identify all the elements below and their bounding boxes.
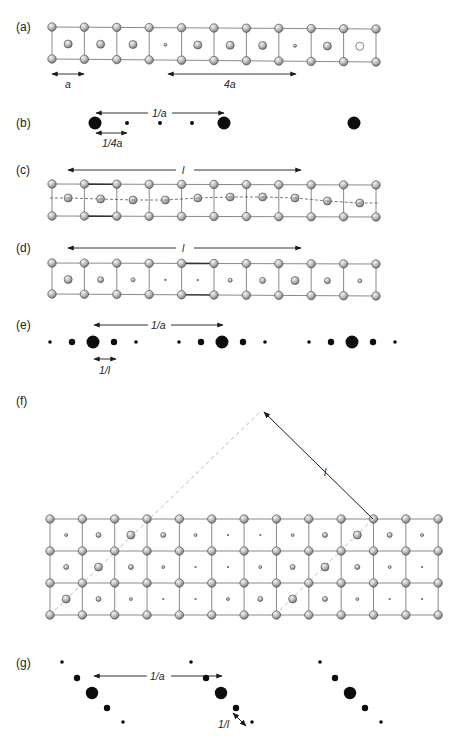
center-atom xyxy=(323,42,331,50)
center-atom xyxy=(194,566,196,568)
diffraction-spot xyxy=(134,340,138,344)
corner-atom xyxy=(242,24,250,32)
diffraction-spot xyxy=(216,336,229,349)
center-atom xyxy=(128,565,133,570)
center-atom xyxy=(97,40,105,48)
corner-atom xyxy=(307,24,315,32)
corner-atom xyxy=(177,212,185,220)
diffraction-spot xyxy=(332,675,338,681)
corner-atom xyxy=(275,260,283,268)
center-atom xyxy=(98,277,104,283)
center-atom xyxy=(353,531,361,539)
center-atom xyxy=(164,43,167,46)
center-atom xyxy=(260,277,266,283)
corner-atom xyxy=(175,547,183,555)
corner-atom xyxy=(210,291,218,299)
panel-label-g: (g) xyxy=(16,656,31,670)
panel-label-d: (d) xyxy=(16,241,31,255)
corner-atom xyxy=(113,180,121,188)
panel-f-2d-modulated-lattice xyxy=(46,410,443,619)
corner-atom xyxy=(48,290,56,298)
diffraction-spot xyxy=(393,340,397,344)
corner-atom xyxy=(208,579,216,587)
center-atom xyxy=(324,278,330,284)
panel-label-c: (c) xyxy=(16,163,30,177)
corner-atom xyxy=(369,611,377,619)
corner-atom xyxy=(145,180,153,188)
corner-atom xyxy=(369,547,377,555)
center-atom xyxy=(226,41,234,49)
corner-atom xyxy=(339,292,347,300)
corner-atom xyxy=(307,181,315,189)
corner-atom xyxy=(240,579,248,587)
corner-atom xyxy=(113,212,121,220)
corner-atom xyxy=(145,259,153,267)
center-atom xyxy=(322,597,327,602)
center-atom xyxy=(162,598,164,600)
diffraction-spot xyxy=(233,705,239,711)
corner-atom xyxy=(177,24,185,32)
dim-label-e-1a: 1/a xyxy=(151,319,166,331)
corner-atom xyxy=(210,212,218,220)
corner-atom xyxy=(339,58,347,66)
corner-atom xyxy=(111,611,119,619)
corner-atom xyxy=(177,259,185,267)
corner-atom xyxy=(339,213,347,221)
diffraction-spot xyxy=(190,121,194,125)
corner-atom xyxy=(272,515,280,523)
corner-atom xyxy=(402,515,410,523)
corner-atom xyxy=(175,579,183,587)
corner-atom xyxy=(210,24,218,32)
center-atom xyxy=(228,278,232,282)
center-atom xyxy=(131,278,135,282)
center-atom xyxy=(64,40,72,48)
corner-atom xyxy=(208,611,216,619)
center-atom xyxy=(226,598,229,601)
corner-atom xyxy=(307,213,315,221)
diffraction-spot xyxy=(346,336,359,349)
center-atom xyxy=(65,534,68,537)
diffraction-spot xyxy=(318,660,322,664)
corner-atom xyxy=(372,292,380,300)
corner-atom xyxy=(208,547,216,555)
corner-atom xyxy=(305,579,313,587)
corner-atom xyxy=(307,260,315,268)
corner-atom xyxy=(111,547,119,555)
corner-atom xyxy=(337,547,345,555)
corner-atom xyxy=(143,611,151,619)
corner-atom xyxy=(80,259,88,267)
panel-g-oblique-satellite-pattern xyxy=(60,660,383,726)
corner-atom xyxy=(337,579,345,587)
superlattice-diffraction-figure: (a) (b) (c) (d) (e) (f) (g) a 4a 1/a 1/4… xyxy=(0,0,463,738)
corner-atom xyxy=(48,23,56,31)
corner-atom xyxy=(402,547,410,555)
corner-atom xyxy=(275,181,283,189)
corner-atom xyxy=(369,579,377,587)
corner-atom xyxy=(145,290,153,298)
panel-label-a: (a) xyxy=(16,20,31,34)
dim-label-d-l: l xyxy=(182,242,185,254)
corner-atom xyxy=(305,515,313,523)
panel-d-occupancy-wave-lattice xyxy=(48,248,380,300)
center-atom xyxy=(129,598,132,601)
panel-b-diffraction-pattern xyxy=(89,113,361,133)
corner-atom xyxy=(372,58,380,66)
corner-atom xyxy=(78,579,86,587)
dim-label-g-1l: 1/l xyxy=(218,718,230,730)
corner-atom xyxy=(210,56,218,64)
diffraction-spot xyxy=(69,339,75,345)
center-atom xyxy=(421,598,423,600)
corner-atom xyxy=(275,24,283,32)
corner-atom xyxy=(372,213,380,221)
corner-atom xyxy=(339,25,347,33)
corner-atom xyxy=(80,23,88,31)
corner-atom xyxy=(145,56,153,64)
center-atom xyxy=(291,534,294,537)
corner-atom xyxy=(208,515,216,523)
center-atom xyxy=(227,534,229,536)
dim-label-4a: 4a xyxy=(224,78,236,90)
panel-e-satellite-pattern xyxy=(48,325,397,359)
center-atom xyxy=(194,41,202,49)
center-atom xyxy=(95,563,103,571)
diffraction-spot xyxy=(370,339,376,345)
